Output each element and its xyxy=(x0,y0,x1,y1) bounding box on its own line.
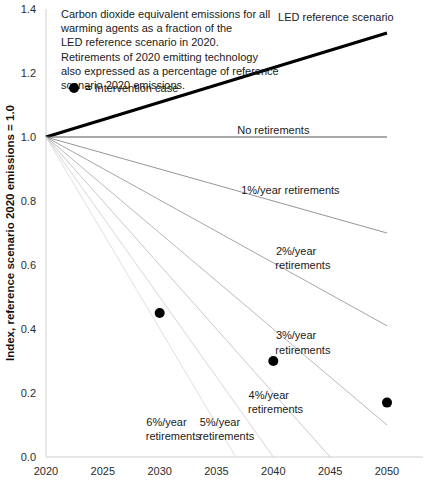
x-tick-label: 2050 xyxy=(375,465,399,477)
x-tick-label: 2035 xyxy=(204,465,228,477)
description-note: Carbon dioxide equivalent emissions for … xyxy=(60,8,279,91)
annotation-r6b: retirements xyxy=(146,430,202,442)
y-tick-label: 1.4 xyxy=(21,3,36,15)
series-line-5-year-retirements xyxy=(46,137,273,457)
y-tick-label: 1.2 xyxy=(21,67,36,79)
annotation-r3b: retirements xyxy=(275,344,331,356)
intervention-point xyxy=(155,308,165,318)
note-line: Carbon dioxide equivalent emissions for … xyxy=(61,8,270,20)
note-line: warming agents as a fraction of the xyxy=(60,22,232,34)
intervention-point xyxy=(268,356,278,366)
annotation-r5a: 5%/year xyxy=(200,416,241,428)
annotation-led: LED reference scenario xyxy=(278,11,394,23)
series-lines xyxy=(46,33,387,457)
series-line-3-year-retirements xyxy=(46,137,387,425)
annotation-r4b: retirements xyxy=(248,403,304,415)
legend-marker-label: = Intervention case xyxy=(85,82,178,94)
x-tick-label: 2040 xyxy=(261,465,285,477)
x-tick-label: 2020 xyxy=(34,465,58,477)
annotation-no-ret: No retirements xyxy=(237,124,310,136)
x-tick-label: 2045 xyxy=(318,465,342,477)
annotation-r6a: 6%/year xyxy=(146,416,187,428)
marker-legend: = Intervention case xyxy=(69,82,178,94)
annotation-r3a: 3%/year xyxy=(276,329,317,341)
y-tick-label: 0.6 xyxy=(21,259,36,271)
legend-marker-dot-icon xyxy=(69,83,79,93)
y-tick-label: 0.2 xyxy=(21,387,36,399)
annotation-r2b: retirements xyxy=(275,259,331,271)
y-axis-title: Index, reference scenario 2020 emissions… xyxy=(4,105,16,361)
y-tick-label: 1.0 xyxy=(21,131,36,143)
annotation-r2a: 2%/year xyxy=(276,245,317,257)
y-tick-label: 0.8 xyxy=(21,195,36,207)
x-tick-label: 2030 xyxy=(147,465,171,477)
annotation-r5b: retirements xyxy=(199,430,255,442)
y-axis-title-text: Index, reference scenario 2020 emissions… xyxy=(4,105,16,361)
annotation-r4a: 4%/year xyxy=(249,389,290,401)
y-tick-label: 0.4 xyxy=(21,323,36,335)
series-line-6-year-retirements xyxy=(46,137,236,457)
note-line: LED reference scenario in 2020. xyxy=(61,36,219,48)
series-line-2-year-retirements xyxy=(46,137,387,326)
chart-figure: 20202025203020352040204520500.00.20.40.6… xyxy=(0,0,447,490)
note-line: Retirements of 2020 emitting technology xyxy=(61,51,258,63)
emissions-index-line-chart: 20202025203020352040204520500.00.20.40.6… xyxy=(0,0,447,490)
intervention-point xyxy=(382,398,392,408)
note-line: also expressed as a percentage of refere… xyxy=(61,65,279,77)
y-tick-label: 0.0 xyxy=(21,451,36,463)
x-tick-label: 2025 xyxy=(91,465,115,477)
annotation-r1: 1%/year retirements xyxy=(241,184,340,196)
